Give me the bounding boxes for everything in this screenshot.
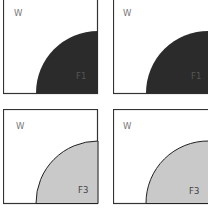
region-label-w: W xyxy=(123,8,132,18)
phase-label: F1 xyxy=(191,71,201,81)
panel-bottom-left: W F3 xyxy=(3,109,99,205)
phase-label: F3 xyxy=(189,186,199,196)
region-label-w: W xyxy=(14,8,23,18)
region-label-w: W xyxy=(123,121,132,131)
panel-top-left: W F1 xyxy=(3,0,99,95)
phase-label: F1 xyxy=(76,71,86,81)
phase-label: F3 xyxy=(78,185,88,195)
panel-bottom-right: W F3 xyxy=(113,109,208,205)
panel-top-right: W F1 xyxy=(113,0,208,95)
region-label-w: W xyxy=(16,121,25,131)
